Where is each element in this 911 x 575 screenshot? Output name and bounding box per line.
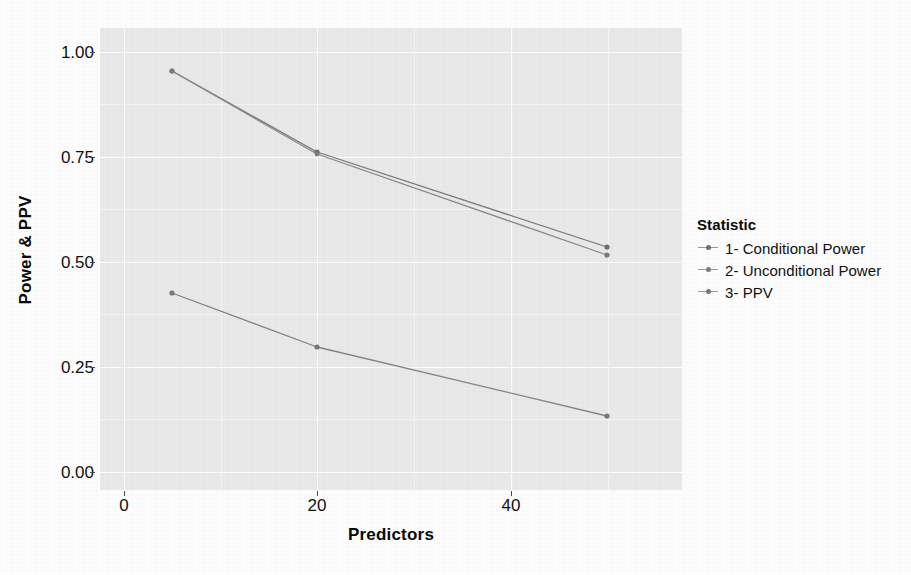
x-tick-label-40: 40 xyxy=(481,497,541,514)
legend-item-unconditional-power[interactable]: 2- Unconditional Power xyxy=(697,259,907,281)
legend-key-icon xyxy=(697,282,719,302)
legend-item-ppv[interactable]: 3- PPV xyxy=(697,281,907,303)
x-axis-title: Predictors xyxy=(100,525,682,545)
x-tick-label-0: 0 xyxy=(94,497,154,514)
legend-key-icon xyxy=(697,260,719,280)
chart-figure: Power & PPV 1.00 0.75 0.50 0.25 0.00 xyxy=(0,0,911,575)
legend-label: 1- Conditional Power xyxy=(725,240,865,257)
legend-item-conditional-power[interactable]: 1- Conditional Power xyxy=(697,237,907,259)
legend-label: 2- Unconditional Power xyxy=(725,262,881,279)
legend: Statistic 1- Conditional Power 2- Uncond… xyxy=(697,216,907,303)
legend-key-icon xyxy=(697,238,719,258)
legend-label: 3- PPV xyxy=(725,284,773,301)
x-tick-label-20: 20 xyxy=(287,497,347,514)
legend-title: Statistic xyxy=(697,216,907,233)
